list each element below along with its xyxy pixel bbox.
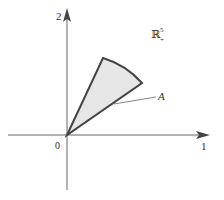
vertical-axis-label: 2 <box>56 10 62 22</box>
region-a <box>67 58 142 135</box>
origin-label: 0 <box>55 140 60 151</box>
space-label-subscript: + <box>160 36 164 44</box>
space-label-superscript: 5 <box>160 26 164 34</box>
horizontal-axis-label: 1 <box>201 140 207 152</box>
diagram-svg: A 2 1 0 ℝ 5 + <box>0 0 224 200</box>
diagram-canvas: A 2 1 0 ℝ 5 + <box>0 0 224 200</box>
region-a-label: A <box>157 90 165 102</box>
